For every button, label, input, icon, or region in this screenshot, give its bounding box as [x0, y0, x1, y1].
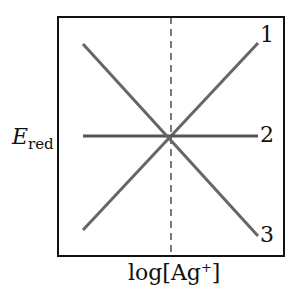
label-3: 3	[260, 222, 274, 247]
x-axis-label: log[Ag+]	[128, 260, 220, 285]
label-1: 1	[260, 22, 274, 47]
label-2: 2	[260, 122, 274, 147]
y-axis-label: Ered	[12, 124, 54, 153]
